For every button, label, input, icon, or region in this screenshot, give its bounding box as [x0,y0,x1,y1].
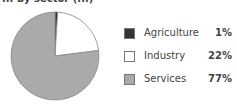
legend-item-agriculture: Agriculture 1% [124,28,234,40]
legend-swatch [124,28,135,39]
pie-slice-industry [55,12,99,56]
legend-value: 22% [208,50,232,61]
legend-label: Services [144,73,186,84]
pie-chart [0,0,120,111]
legend-value: 77% [208,73,232,84]
legend-item-industry: Industry 22% [124,51,234,63]
legend-label: Agriculture [144,27,199,38]
legend-swatch [124,51,135,62]
legend-item-services: Services 77% [124,74,234,86]
legend-label: Industry [144,50,185,61]
legend-value: 1% [215,27,232,38]
legend-swatch [124,74,135,85]
